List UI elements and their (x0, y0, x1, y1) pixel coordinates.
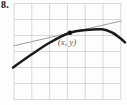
grid-lines (14, 4, 121, 100)
function-curve (13, 29, 125, 67)
tangency-point-dot (68, 31, 73, 36)
tangent-line-graph: (x, y) (0, 0, 127, 105)
textbook-exercise-figure: 8. (x, y) (0, 0, 127, 105)
point-label: (x, y) (58, 37, 76, 47)
